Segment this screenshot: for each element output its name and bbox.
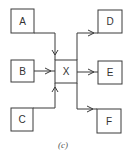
node-e: E [98, 61, 122, 84]
node-c: C [11, 108, 33, 131]
node-x-label: X [63, 66, 70, 77]
node-e-label: E [107, 67, 114, 78]
edge-x-e [77, 69, 98, 75]
flow-diagram: A B C X D E F (c) [0, 0, 128, 158]
node-a: A [11, 9, 34, 33]
figure-caption: (c) [58, 140, 68, 150]
node-f-label: F [106, 116, 112, 127]
node-a-label: A [19, 16, 26, 27]
edge-b-x [34, 68, 55, 74]
edge-x-d [77, 30, 98, 60]
node-b-label: B [19, 66, 26, 77]
node-d: D [98, 10, 122, 33]
node-x: X [55, 60, 77, 83]
node-d-label: D [106, 16, 113, 27]
edge-a-x [34, 33, 58, 60]
edge-x-f [77, 83, 97, 112]
edge-c-x [33, 83, 58, 108]
node-c-label: C [18, 114, 25, 125]
node-b: B [11, 60, 34, 82]
node-f: F [97, 109, 121, 133]
